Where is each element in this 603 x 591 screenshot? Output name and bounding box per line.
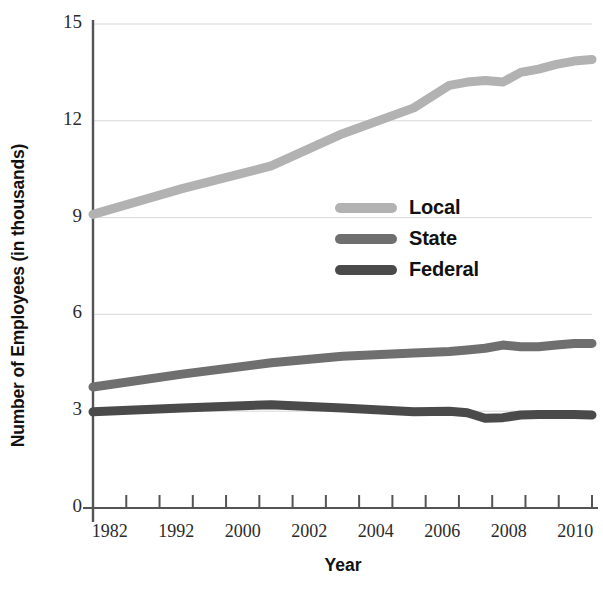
x-tick-label: 1992 <box>158 521 194 542</box>
x-tick-label: 1982 <box>92 521 128 542</box>
legend-label: Local <box>409 196 460 219</box>
plot-area <box>0 0 603 591</box>
x-tick-label: 2000 <box>225 521 261 542</box>
line-chart: Number of Employees (in thousands) 03691… <box>0 0 603 591</box>
x-tick-label: 2008 <box>491 521 527 542</box>
legend-item: State <box>335 223 535 254</box>
x-tick-label: 2006 <box>424 521 460 542</box>
x-axis-title: Year <box>88 555 598 576</box>
x-tick-label: 2004 <box>358 521 394 542</box>
x-tick-label: 2002 <box>291 521 327 542</box>
legend-label: Federal <box>409 258 479 281</box>
legend-item: Local <box>335 192 535 223</box>
legend-swatch <box>335 234 397 244</box>
series-line-federal <box>93 405 592 419</box>
legend-swatch <box>335 203 397 213</box>
legend-item: Federal <box>335 254 535 285</box>
legend-label: State <box>409 227 457 250</box>
chart-legend: LocalStateFederal <box>335 192 535 285</box>
series-line-state <box>93 343 592 387</box>
legend-swatch <box>335 265 397 275</box>
x-tick-label: 2010 <box>557 521 593 542</box>
